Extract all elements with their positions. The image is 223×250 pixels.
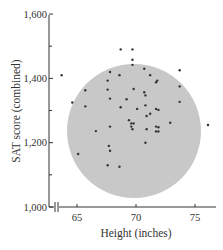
data-point: [155, 108, 157, 110]
data-point: [109, 150, 111, 152]
data-point: [132, 122, 134, 124]
data-point: [130, 125, 132, 127]
data-point: [106, 164, 108, 166]
data-point: [109, 71, 111, 73]
data-point: [145, 128, 147, 130]
x-tick-label: 75: [190, 212, 201, 223]
data-point: [178, 101, 180, 103]
data-point: [109, 97, 111, 99]
data-point: [131, 48, 133, 50]
x-axis-label: Height (inches): [100, 227, 171, 240]
data-point: [157, 109, 159, 111]
data-point: [131, 59, 133, 61]
x-tick-label: 65: [72, 212, 83, 223]
x-axis-break-icon: [54, 202, 59, 212]
y-tick-label: 1,600: [23, 9, 47, 20]
data-point: [119, 48, 121, 50]
data-point: [131, 128, 133, 130]
data-point: [84, 89, 86, 91]
data-point: [77, 153, 79, 155]
data-point: [118, 74, 120, 76]
data-point: [144, 94, 146, 96]
data-point: [136, 108, 138, 110]
x-tick-label: 70: [131, 212, 142, 223]
data-point: [155, 125, 157, 127]
data-point: [106, 79, 108, 81]
data-point: [156, 79, 158, 81]
data-point: [60, 74, 62, 76]
data-point: [95, 130, 97, 132]
data-point: [207, 124, 209, 126]
data-point: [144, 141, 146, 143]
data-point: [84, 105, 86, 107]
data-point: [130, 122, 132, 124]
data-point: [157, 126, 159, 128]
y-tick-label: 1,400: [23, 73, 47, 84]
data-point: [128, 119, 130, 121]
data-point: [106, 88, 108, 90]
data-point: [145, 115, 147, 117]
data-point: [119, 106, 121, 108]
data-point: [109, 125, 111, 127]
data-point: [178, 69, 180, 71]
scatter-chart: 1,0001,2001,4001,600 657075 Height (inch…: [0, 0, 223, 250]
data-point: [131, 64, 133, 66]
y-axis-label: SAT score (combined): [10, 59, 23, 162]
data-point: [157, 130, 159, 132]
data-point: [132, 88, 134, 90]
data-point: [108, 145, 110, 147]
highlight-circle: [67, 64, 201, 198]
data-point: [125, 98, 127, 100]
data-point: [71, 101, 73, 103]
data-point: [149, 74, 151, 76]
data-point: [149, 113, 151, 115]
data-point: [169, 122, 171, 124]
y-tick-label: 1,200: [23, 137, 47, 148]
data-point: [178, 85, 180, 87]
data-point: [144, 104, 146, 106]
y-tick-label: 1,000: [23, 202, 47, 213]
data-point: [143, 91, 145, 93]
data-point: [118, 166, 120, 168]
data-point: [155, 130, 157, 132]
data-point: [143, 68, 145, 70]
